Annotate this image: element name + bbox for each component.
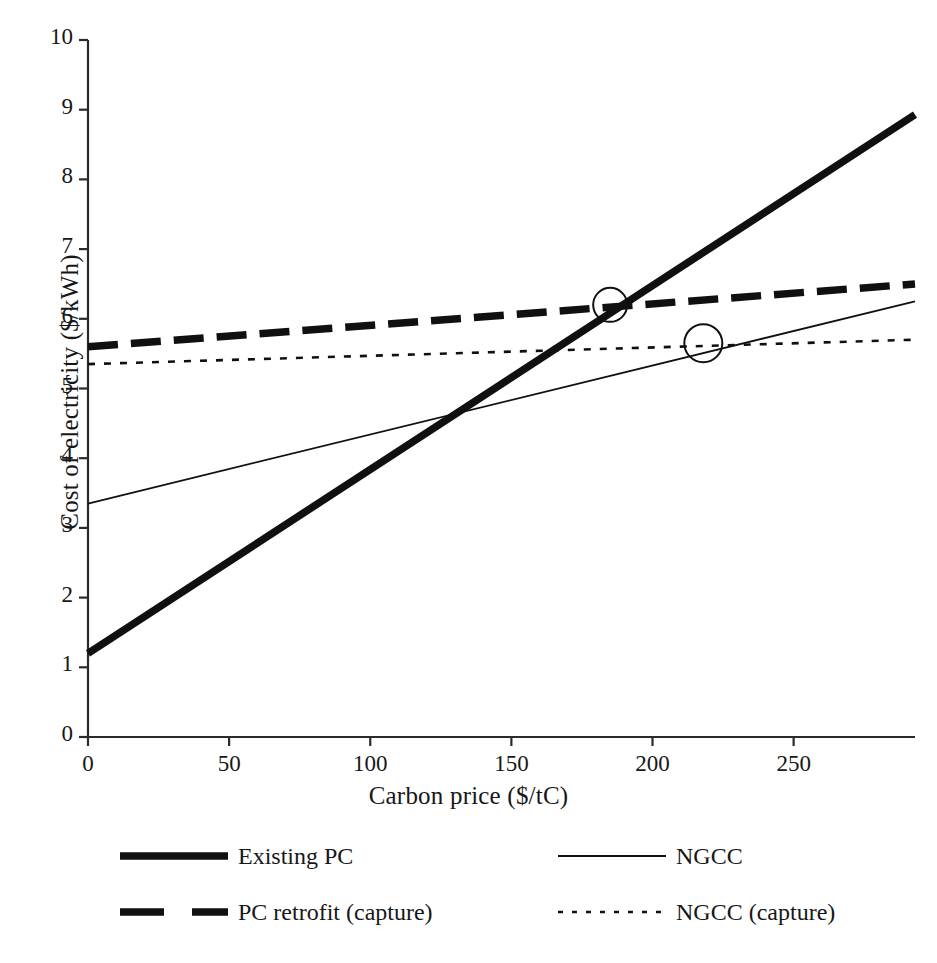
series-group [88, 115, 915, 654]
y-axis-title: Cost of electricity ($/kWh) [56, 92, 84, 692]
legend-swatch-dotted [558, 901, 666, 923]
legend-label: PC retrofit (capture) [238, 899, 433, 926]
legend-item-pc-retrofit-capture: PC retrofit (capture) [120, 892, 510, 932]
x-axis-title: Carbon price ($/tC) [0, 782, 937, 810]
y-tick-label: 0 [29, 721, 73, 747]
y-tick-label: 10 [29, 24, 73, 50]
legend-item-ngcc: NGCC [510, 836, 860, 876]
legend-item-existing-pc: Existing PC [120, 836, 510, 876]
ticks-group [79, 40, 794, 746]
x-tick-label: 250 [759, 751, 829, 777]
x-tick-label: 200 [618, 751, 688, 777]
legend-item-ngcc-capture: NGCC (capture) [510, 892, 860, 932]
x-tick-label: 50 [194, 751, 264, 777]
x-tick-label: 150 [476, 751, 546, 777]
series-line-ngcc [88, 301, 915, 503]
plot-canvas [0, 0, 937, 963]
axes-group [88, 40, 915, 737]
legend-swatch-thin-solid [558, 845, 666, 867]
crossover-marker-2 [684, 324, 722, 362]
series-line-pc-retrofit-capture [88, 284, 915, 347]
chart-figure: 012345678910050100150200250 Carbon price… [0, 0, 937, 963]
legend-swatch-thick-dashed [120, 901, 228, 923]
x-tick-label: 100 [335, 751, 405, 777]
series-line-ngcc-capture [88, 340, 915, 364]
legend-label: Existing PC [238, 843, 353, 870]
legend-swatch-thick-solid [120, 845, 228, 867]
legend-label: NGCC [676, 843, 743, 870]
chart-legend: Existing PC NGCC PC retrofit (capture) N… [120, 828, 860, 948]
series-line-existing-pc [88, 115, 915, 654]
legend-label: NGCC (capture) [676, 899, 835, 926]
x-tick-label: 0 [53, 751, 123, 777]
